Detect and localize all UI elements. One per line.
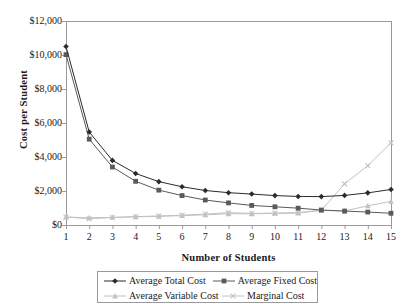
legend-item-average-variable-cost: Average Variable Cost — [98, 288, 218, 303]
triangle-marker — [388, 198, 394, 203]
square-marker — [365, 210, 370, 215]
legend-row: Average Variable Cost Marginal Cost — [98, 288, 317, 303]
square-marker — [133, 179, 138, 184]
square-marker — [226, 201, 231, 206]
legend-label: Average Variable Cost — [129, 290, 219, 302]
legend-label: Average Total Cost — [129, 275, 206, 287]
square-marker — [296, 206, 301, 211]
diamond-marker — [179, 184, 185, 190]
series-line — [66, 47, 391, 197]
square-marker — [273, 204, 278, 209]
diamond-marker — [202, 188, 208, 194]
diamond-marker — [295, 194, 301, 200]
diamond-marker — [272, 193, 278, 199]
chart-legend: Average Total Cost Average Fixed Cost Av… — [97, 271, 318, 303]
square-marker — [342, 209, 347, 214]
legend-row: Average Total Cost Average Fixed Cost — [98, 273, 317, 288]
diamond-marker — [249, 191, 255, 197]
diamond-marker-icon — [104, 275, 126, 287]
series-line — [66, 143, 391, 219]
diamond-marker — [319, 194, 325, 200]
cross-marker — [342, 181, 347, 186]
diamond-marker — [156, 179, 162, 185]
cross-marker-icon — [222, 290, 244, 302]
diamond-marker — [133, 171, 139, 177]
square-marker — [249, 203, 254, 208]
square-marker — [203, 198, 208, 203]
legend-item-average-fixed-cost: Average Fixed Cost — [209, 273, 317, 288]
square-marker — [87, 137, 92, 142]
x-axis-title: Number of Students — [66, 252, 391, 263]
square-marker — [156, 188, 161, 193]
diamond-marker — [388, 187, 394, 193]
diamond-marker — [365, 190, 371, 196]
square-marker — [389, 211, 394, 216]
series-line — [66, 55, 391, 214]
cost-per-student-chart: Cost per Student $0$2,000$4,000$6,000$8,… — [0, 0, 413, 304]
square-marker — [180, 193, 185, 198]
legend-item-marginal-cost: Marginal Cost — [218, 288, 317, 303]
diamond-marker — [226, 190, 232, 196]
diamond-marker — [112, 278, 118, 284]
diamond-marker — [63, 44, 69, 50]
cross-marker — [365, 163, 370, 168]
legend-label: Marginal Cost — [247, 290, 304, 302]
square-marker — [221, 278, 226, 283]
series-average-total-cost — [63, 44, 394, 200]
triangle-marker-icon — [104, 290, 126, 302]
legend-label: Average Fixed Cost — [238, 275, 317, 287]
square-marker — [110, 165, 115, 170]
square-marker-icon — [213, 275, 235, 287]
diamond-marker — [342, 193, 348, 199]
square-marker — [319, 208, 324, 213]
legend-item-average-total-cost: Average Total Cost — [98, 273, 209, 288]
